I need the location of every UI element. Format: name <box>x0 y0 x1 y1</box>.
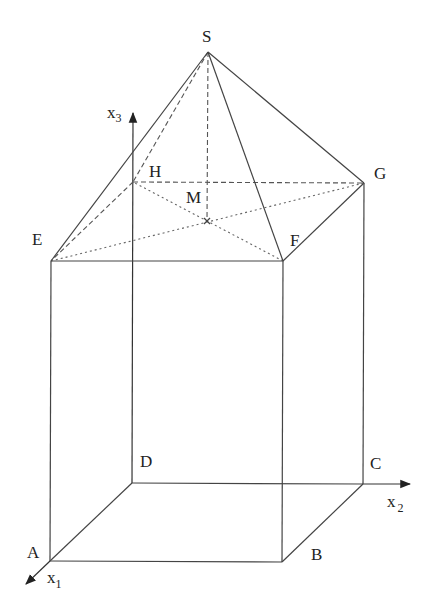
label-c: C <box>370 454 381 473</box>
label-s: S <box>202 27 211 46</box>
point-m-marker <box>204 218 210 224</box>
edge-sh <box>133 52 208 182</box>
cuboid-pyramid-diagram: S H G M E F D C A B x3 x2 x1 <box>0 0 435 612</box>
axis-label-x3: x3 <box>107 103 122 125</box>
edge-ad <box>50 483 132 561</box>
edge-cg <box>363 183 364 484</box>
label-h: H <box>149 162 161 181</box>
label-b: B <box>311 545 322 564</box>
axis-labels: x3 x2 x1 <box>47 103 404 591</box>
edge-ab <box>50 561 282 562</box>
edge-he <box>51 182 133 261</box>
hidden-edges <box>51 52 364 261</box>
axis-label-x2: x2 <box>387 492 404 515</box>
cuboid-edges <box>50 183 364 562</box>
height-sm <box>207 52 208 221</box>
coordinate-axes <box>26 113 410 584</box>
edge-se <box>51 52 208 261</box>
label-m: M <box>186 188 201 207</box>
x3-axis <box>132 113 133 483</box>
edge-hg <box>133 182 364 183</box>
axis-label-x1: x1 <box>47 568 62 591</box>
label-e: E <box>32 230 42 249</box>
label-a: A <box>27 543 40 562</box>
edge-ae <box>50 261 51 561</box>
edge-dc <box>132 483 363 484</box>
edge-bf <box>282 261 283 562</box>
edge-bc <box>282 484 363 562</box>
label-d: D <box>140 452 152 471</box>
label-g: G <box>374 164 386 183</box>
label-f: F <box>290 231 299 250</box>
